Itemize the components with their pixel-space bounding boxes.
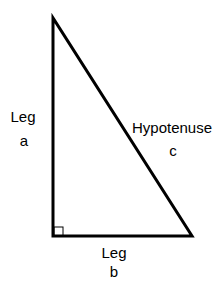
leg-b-letter: b	[110, 264, 118, 280]
hypotenuse-letter: c	[169, 143, 177, 159]
leg-b-label: Leg	[101, 245, 126, 261]
leg-a-letter: a	[20, 133, 28, 149]
leg-a-label: Leg	[10, 109, 35, 125]
hypotenuse-label: Hypotenuse	[132, 120, 212, 136]
